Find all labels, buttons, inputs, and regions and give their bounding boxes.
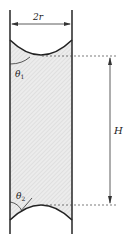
height-dimension xyxy=(108,57,112,204)
capillary-diagram: 2r θ1 θ2 H xyxy=(0,0,131,249)
diameter-dimension xyxy=(11,22,71,26)
diameter-label: 2r xyxy=(32,12,44,22)
height-label: H xyxy=(113,125,123,136)
